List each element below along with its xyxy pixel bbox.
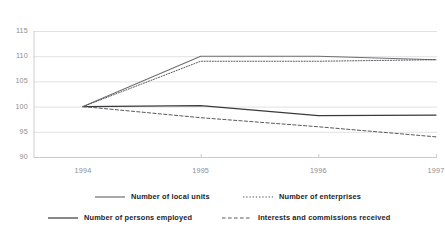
series-line-0	[83, 56, 436, 106]
legend-entry-interests-commissions: Interests and commissions received	[222, 209, 390, 227]
legend-entry-persons-employed: Number of persons employed	[48, 209, 192, 227]
legend-line-swatch-dotted	[243, 192, 273, 202]
y-tick-label-100: 100	[6, 103, 28, 110]
x-tick-label-1995: 1995	[181, 167, 221, 174]
axis-lines	[34, 31, 438, 158]
legend-entry-enterprises: Number of enterprises	[243, 188, 361, 206]
legend-label-enterprises: Number of enterprises	[279, 193, 361, 200]
series-line-1	[83, 60, 436, 107]
legend-label-interests-commissions: Interests and commissions received	[258, 214, 390, 221]
y-tick-label-110: 110	[6, 52, 28, 59]
gridlines	[34, 32, 438, 158]
legend-row-2: Number of persons employed Interests and…	[0, 209, 445, 227]
legend-row-1: Number of local units Number of enterpri…	[0, 188, 445, 206]
x-tick-label-1996: 1996	[298, 167, 338, 174]
y-tick-label-115: 115	[6, 27, 28, 34]
x-tick-label-1994: 1994	[63, 167, 103, 174]
y-tick-label-90: 90	[6, 153, 28, 160]
legend-line-swatch-solid	[48, 213, 78, 223]
legend-line-swatch-dashed	[222, 213, 252, 223]
legend-label-persons-employed: Number of persons employed	[84, 214, 192, 221]
line-chart: 1151101051009590 1994199519961997 Number…	[0, 0, 445, 231]
y-tick-label-95: 95	[6, 128, 28, 135]
chart-legend: Number of local units Number of enterpri…	[0, 188, 445, 231]
x-tick-label-1997: 1997	[416, 167, 445, 174]
legend-entry-local-units: Number of local units	[95, 188, 210, 206]
legend-line-swatch-solid	[95, 192, 125, 202]
x-axis-ticks	[201, 154, 436, 157]
legend-label-local-units: Number of local units	[131, 193, 210, 200]
series-lines	[83, 56, 436, 137]
y-tick-label-105: 105	[6, 77, 28, 84]
